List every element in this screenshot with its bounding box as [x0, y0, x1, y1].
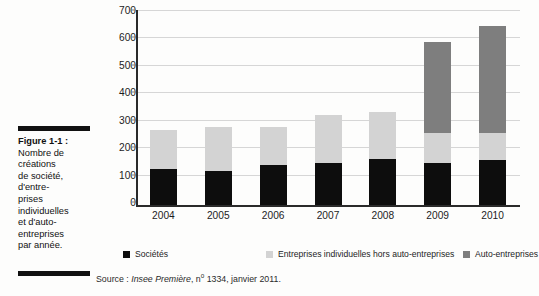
gridline — [136, 92, 520, 93]
bar-2009 — [424, 42, 451, 205]
bar-segment — [315, 163, 342, 206]
caption-line: Nombre de — [18, 148, 100, 160]
source-note: Source : Insee Première, no 1334, janvie… — [96, 272, 281, 284]
caption-line: d'entre- — [18, 182, 100, 194]
bar-segment — [205, 127, 232, 171]
y-axis-line — [136, 10, 138, 206]
bar-segment — [424, 133, 451, 163]
legend-item: Entreprises individuelles hors auto-entr… — [266, 249, 454, 259]
x-tick-label: 2010 — [470, 210, 516, 221]
plot-area: 2004200520062007200820092010 — [136, 10, 520, 206]
bar-segment — [369, 159, 396, 205]
x-tick-label: 2006 — [250, 210, 296, 221]
bar-segment — [369, 112, 396, 159]
caption-line: entreprises — [18, 229, 100, 241]
bar-2008 — [369, 112, 396, 205]
source-prefix: Source : — [96, 274, 131, 284]
caption-line: et d'auto- — [18, 217, 100, 229]
x-tick-label: 2004 — [140, 210, 186, 221]
legend-swatch — [123, 251, 130, 258]
x-tick-label: 2009 — [415, 210, 461, 221]
x-tick-label: 2007 — [305, 210, 351, 221]
legend-label: Sociétés — [135, 249, 168, 259]
bar-2005 — [205, 127, 232, 205]
bar-segment — [315, 115, 342, 162]
source-separator: , n — [191, 274, 201, 284]
bar-segment — [260, 165, 287, 205]
caption-line: individuelles — [18, 206, 100, 218]
bar-segment — [479, 26, 506, 133]
figure-caption-block: Figure 1-1 : Nombre decréationsde sociét… — [18, 126, 100, 252]
caption-line: prises — [18, 194, 100, 206]
bar-segment — [479, 133, 506, 160]
bar-2010 — [479, 26, 506, 205]
caption-rule-top — [18, 126, 90, 131]
legend-item: Sociétés — [123, 249, 168, 259]
source-publication: Insee Première — [131, 274, 191, 284]
legend-swatch — [463, 251, 470, 258]
bar-2007 — [315, 115, 342, 205]
figure-page: Figure 1-1 : Nombre decréationsde sociét… — [0, 0, 539, 296]
gridline — [136, 37, 520, 38]
bar-segment — [205, 171, 232, 205]
bar-2006 — [260, 127, 287, 205]
chart: 0100200300400500600700 20042005200620072… — [100, 10, 528, 236]
legend-swatch — [266, 251, 273, 258]
chart-legend: SociétésEntreprises individuelles hors a… — [123, 249, 533, 263]
gridline — [136, 10, 520, 11]
x-tick-label: 2008 — [360, 210, 406, 221]
source-issue: 1334, janvier 2011. — [204, 274, 281, 284]
bar-segment — [260, 127, 287, 165]
x-axis-line — [136, 205, 520, 207]
caption-line: de société, — [18, 171, 100, 183]
legend-label: Entreprises individuelles hors auto-entr… — [278, 249, 454, 259]
caption-line: par année. — [18, 240, 100, 252]
bar-segment — [424, 163, 451, 205]
caption-line: créations — [18, 159, 100, 171]
x-tick-label: 2005 — [195, 210, 241, 221]
bar-segment — [424, 42, 451, 133]
figure-caption-text: Figure 1-1 : Nombre decréationsde sociét… — [18, 136, 100, 252]
bar-2004 — [150, 130, 177, 205]
figure-label: Figure 1-1 : — [18, 136, 68, 146]
gridline — [136, 65, 520, 66]
legend-label: Auto-entreprises — [475, 249, 538, 259]
bar-segment — [150, 169, 177, 205]
bar-segment — [479, 160, 506, 205]
figure-caption-body: Nombre decréationsde société,d'entre-pri… — [18, 148, 100, 252]
caption-rule-bottom — [18, 271, 90, 276]
legend-item: Auto-entreprises — [463, 249, 538, 259]
bar-segment — [150, 130, 177, 169]
